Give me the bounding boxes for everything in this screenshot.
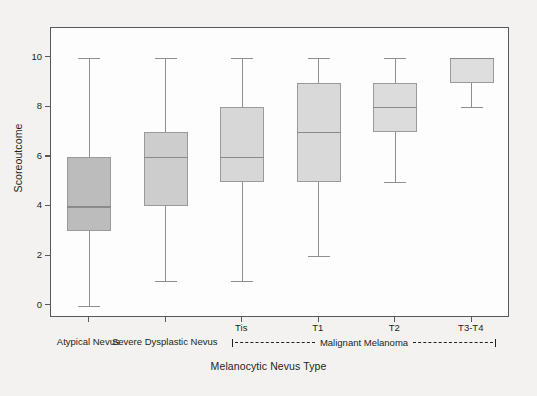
y-tick-label: 2: [37, 248, 42, 261]
x-tick-label: T2: [389, 322, 400, 333]
x-category-label: Severe Dysplastic Nevus: [112, 336, 218, 347]
box-iqr: [450, 58, 494, 83]
y-tick-mark: [45, 106, 50, 107]
x-axis: [0, 317, 537, 325]
y-tick-label: 0: [37, 298, 42, 311]
median-line: [450, 58, 494, 59]
x-axis-title: Melanocytic Nevus Type: [0, 360, 537, 372]
x-tick-label: T3-T4: [458, 322, 483, 333]
group-bracket: Malignant Melanoma: [232, 336, 496, 349]
bracket-left-end: [232, 339, 233, 347]
x-tick-label: T1: [312, 322, 323, 333]
y-tick-mark: [45, 304, 50, 305]
y-tick-label: 4: [37, 198, 42, 211]
y-tick-label: 10: [31, 50, 42, 63]
y-axis: 0246810: [0, 0, 50, 396]
boxplot-figure: 0246810 Scoreoutcome Atypical NevusSever…: [0, 0, 537, 396]
y-axis-title: Scoreoutcome: [12, 78, 24, 238]
y-tick-mark: [45, 255, 50, 256]
y-tick-mark: [45, 205, 50, 206]
boxplot-item: [51, 28, 510, 318]
whisker-cap-lower: [461, 107, 483, 108]
y-tick-label: 6: [37, 149, 42, 162]
x-category-label: Atypical Nevus: [57, 336, 120, 347]
y-tick-label: 8: [37, 99, 42, 112]
x-tick-mark: [165, 317, 166, 322]
bracket-dash-right: [413, 342, 493, 344]
x-tick-mark: [88, 317, 89, 322]
y-tick-mark: [45, 155, 50, 156]
bracket-right-end: [495, 339, 496, 347]
bracket-dash-left: [235, 342, 315, 344]
x-tick-label: Tis: [235, 322, 247, 333]
bracket-label: Malignant Melanoma: [317, 337, 411, 348]
whisker-lower: [471, 83, 472, 108]
y-tick-mark: [45, 56, 50, 57]
plot-area: [50, 27, 509, 317]
